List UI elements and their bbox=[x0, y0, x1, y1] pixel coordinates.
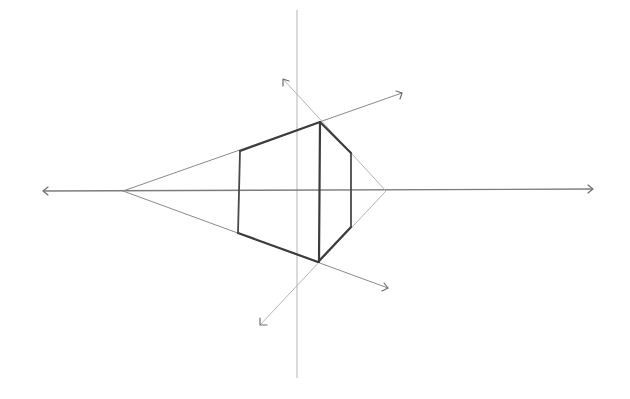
shape-middle-vertical bbox=[319, 122, 320, 262]
perspective-drawing bbox=[0, 0, 630, 399]
shape-left-vertical bbox=[238, 151, 240, 233]
shape-top-edge bbox=[240, 122, 351, 153]
shape-bottom-edge bbox=[238, 227, 351, 262]
